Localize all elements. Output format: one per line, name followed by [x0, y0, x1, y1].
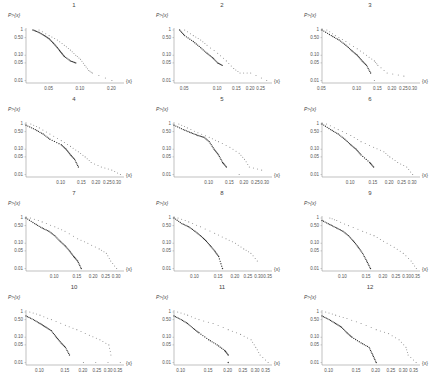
- data-point: [338, 133, 339, 134]
- y-tick-label: 0.05: [162, 60, 171, 65]
- data-point: [376, 362, 377, 363]
- data-point: [361, 323, 362, 324]
- x-axis-label: {x}: [274, 78, 280, 84]
- data-point: [81, 268, 82, 269]
- x-tick-label: 0.20: [107, 86, 116, 91]
- data-point: [78, 166, 79, 167]
- data-point: [239, 174, 240, 175]
- x-axis-label: {x}: [126, 360, 132, 366]
- data-point: [38, 29, 39, 30]
- data-point: [342, 231, 343, 232]
- x-tick-label: 0.35: [411, 274, 420, 279]
- data-point: [345, 45, 346, 46]
- data-point: [65, 347, 66, 348]
- x-axis-label: {x}: [126, 78, 132, 84]
- data-point: [239, 153, 240, 154]
- data-point: [366, 55, 367, 56]
- data-point: [350, 144, 351, 145]
- data-point: [89, 335, 90, 336]
- y-tick-label: 0.50: [162, 317, 171, 322]
- y-tick-label: 0.50: [162, 129, 171, 134]
- data-point: [250, 253, 251, 254]
- y-tick-label: 0.05: [14, 248, 23, 253]
- data-point: [228, 329, 229, 330]
- data-point: [74, 159, 75, 160]
- data-point: [61, 140, 62, 141]
- data-point: [69, 250, 70, 251]
- data-point: [353, 241, 354, 242]
- data-point: [110, 354, 111, 355]
- y-tick-label: 0.50: [14, 317, 23, 322]
- data-point: [331, 35, 332, 36]
- y-tick-label: 0.10: [162, 240, 171, 245]
- data-point: [200, 235, 201, 236]
- data-point: [394, 247, 395, 248]
- data-point: [178, 123, 179, 124]
- data-point: [357, 55, 358, 56]
- data-point: [351, 50, 352, 51]
- y-tick-label: 0.50: [162, 223, 171, 228]
- data-point: [48, 231, 49, 232]
- data-point: [416, 268, 417, 269]
- data-point: [233, 68, 234, 69]
- data-point: [250, 72, 251, 73]
- x-tick-label: 0.20: [78, 368, 87, 373]
- data-point: [173, 217, 174, 218]
- y-tick-label: 0.01: [14, 266, 23, 271]
- x-tick-label: 0.10: [176, 368, 185, 373]
- data-point: [213, 323, 214, 324]
- plot-panel-12: 12P>{x}10.500.100.050.010.100.150.200.25…: [296, 282, 444, 376]
- x-tick-label: 0.05: [44, 86, 53, 91]
- data-point: [80, 59, 81, 60]
- data-point: [49, 35, 50, 36]
- data-point: [351, 337, 352, 338]
- x-tick-label: 0.15: [373, 86, 382, 91]
- axes: [174, 216, 272, 271]
- x-tick-label: 0.10: [204, 180, 213, 185]
- y-tick-label: 0.01: [14, 360, 23, 365]
- data-point: [209, 137, 210, 138]
- x-tick-label: 0.30: [112, 274, 121, 279]
- data-point: [77, 260, 78, 261]
- data-point: [261, 170, 262, 171]
- data-point: [335, 323, 336, 324]
- data-point: [260, 354, 261, 355]
- data-point: [65, 149, 66, 150]
- axes: [174, 28, 272, 83]
- data-point: [64, 231, 65, 232]
- data-point: [326, 29, 327, 30]
- x-axis-label: {x}: [422, 78, 428, 84]
- data-point: [187, 127, 188, 128]
- data-point: [370, 72, 371, 73]
- x-axis-label: {x}: [126, 172, 132, 178]
- data-point: [403, 253, 404, 254]
- data-point: [360, 141, 361, 142]
- y-tick-label: 0.01: [310, 172, 319, 177]
- data-point: [25, 124, 26, 125]
- x-tick-label: 0.25: [238, 368, 247, 373]
- data-point: [348, 235, 349, 236]
- data-point: [184, 29, 185, 30]
- y-tick-label: 0.50: [310, 317, 319, 322]
- data-point: [226, 166, 227, 167]
- y-tick-label: 0.05: [310, 60, 319, 65]
- y-tick-label: 0.10: [14, 334, 23, 339]
- data-point: [335, 35, 336, 36]
- data-point: [177, 217, 178, 218]
- plot-panel-9: 9P>{x}10.500.100.050.010.100.150.200.250…: [296, 188, 444, 282]
- data-point: [106, 253, 107, 254]
- data-point: [51, 330, 52, 331]
- data-point: [30, 217, 31, 218]
- data-point: [99, 248, 100, 249]
- data-point: [111, 80, 112, 81]
- data-point: [325, 311, 326, 312]
- data-point: [357, 48, 358, 49]
- data-point: [85, 156, 86, 157]
- data-point: [39, 315, 40, 316]
- y-tick-label: 0.10: [162, 52, 171, 57]
- axes: [26, 122, 124, 177]
- data-point: [33, 319, 34, 320]
- data-point: [91, 162, 92, 163]
- axes: [322, 122, 420, 177]
- data-point: [376, 329, 377, 330]
